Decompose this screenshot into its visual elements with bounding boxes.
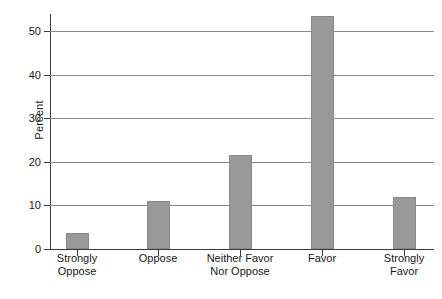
gridline-50 [50,31,434,32]
x-axis-label-line: Strongly [384,252,424,265]
y-tick-mark [44,205,50,206]
gridline-30 [50,118,434,119]
y-tick-mark [44,162,50,163]
bar [311,16,334,249]
x-axis-label-line: Favor [384,265,424,278]
x-axis-label-line: Oppose [57,265,97,278]
x-axis-label-line: Neither Favor [207,252,274,265]
y-tick-label: 50 [29,25,41,37]
x-axis-label: Neither FavorNor Oppose [207,252,274,278]
x-axis-line [50,249,434,250]
x-axis-label: Oppose [139,252,178,265]
x-axis-label-line: Strongly [57,252,97,265]
bar-chart: Percent 01020304050 StronglyOpposeOppose… [0,0,442,299]
y-tick-label: 30 [29,112,41,124]
y-tick-label: 20 [29,156,41,168]
x-axis-label: StronglyFavor [384,252,424,278]
x-axis-label: StronglyOppose [57,252,97,278]
bar [393,197,416,249]
y-tick-mark [44,249,50,250]
y-tick-mark [44,118,50,119]
bar [147,201,170,249]
y-tick-label: 40 [29,69,41,81]
x-axis-label-line: Favor [308,252,336,265]
y-axis-line [50,14,51,250]
gridline-40 [50,75,434,76]
x-axis-label: Favor [308,252,336,265]
bar [66,233,89,249]
x-axis-label-line: Nor Oppose [207,265,274,278]
y-tick-mark [44,75,50,76]
plot-area: 01020304050 [50,14,434,250]
y-tick-mark [44,31,50,32]
y-tick-label: 10 [29,199,41,211]
y-tick-label: 0 [35,243,41,255]
bar [229,155,252,249]
x-axis-label-line: Oppose [139,252,178,265]
